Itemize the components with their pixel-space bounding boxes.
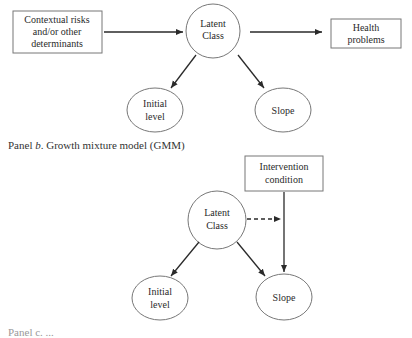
svg-text:Initial: Initial [148,286,172,297]
svg-text:determinants: determinants [31,38,83,49]
svg-text:Class: Class [206,220,228,231]
contextual-line1: Contextual risks [24,14,89,25]
latent-line1: Latent [200,18,226,29]
panel-a: Contextual risks and/or other determinan… [13,4,401,132]
arrow-latent-to-slope [238,55,264,88]
intervention-line2: condition [265,174,303,185]
health-line2: problems [347,34,384,45]
svg-text:Slope: Slope [273,292,296,303]
health-line1: Health [353,22,380,33]
latent-line2: Class [202,30,224,41]
svg-text:condition: condition [265,174,303,185]
slope-b-label: Slope [273,292,296,303]
caption-rest: . Growth mixture model (GMM) [41,139,185,151]
initial-level-node [127,88,183,132]
latent-b-line2: Class [206,220,228,231]
svg-text:Intervention: Intervention [260,161,309,172]
arrow-latent-b-to-slope [237,242,265,276]
caption-prefix: Panel [8,139,35,151]
svg-text:Latent: Latent [204,207,230,218]
svg-text:level: level [150,299,170,310]
svg-text:Slope: Slope [272,105,295,116]
svg-text:Latent: Latent [200,18,226,29]
arrow-latent-b-to-initial [171,242,199,276]
svg-text:Class: Class [202,30,224,41]
latent-b-line1: Latent [204,207,230,218]
svg-text:level: level [145,111,165,122]
svg-text:problems: problems [347,34,384,45]
slope-label: Slope [272,105,295,116]
panel-c-caption-clipped: Panel c. ... [8,326,54,338]
arrow-latent-to-initial [171,55,196,88]
svg-text:Contextual risks: Contextual risks [24,14,89,25]
initial-b-line1: Initial [148,286,172,297]
initial-line1: Initial [143,98,167,109]
contextual-line2: and/or other [33,26,82,37]
caption-partial: Panel c. ... [8,326,54,338]
initial-line2: level [145,111,165,122]
initial-level-node-b [132,276,188,320]
panel-b-caption: Panel b. Growth mixture model (GMM) [8,139,185,151]
contextual-line3: determinants [31,38,83,49]
initial-b-line2: level [150,299,170,310]
svg-text:and/or other: and/or other [33,26,82,37]
panel-b: Intervention condition Latent Class Init… [132,156,323,320]
svg-text:Health: Health [353,22,380,33]
svg-text:Initial: Initial [143,98,167,109]
intervention-line1: Intervention [260,161,309,172]
